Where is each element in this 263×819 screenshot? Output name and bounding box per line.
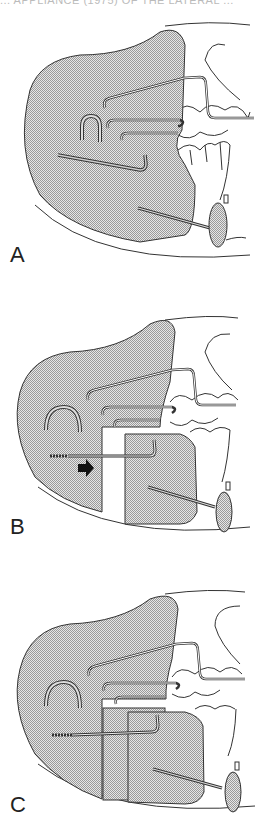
lip-pad	[216, 492, 232, 532]
acrylic-shield-lower-segment	[125, 434, 197, 524]
panel-label-a: A	[10, 242, 25, 268]
appliance-diagram-c	[0, 544, 263, 819]
acrylic-shield-lower-segment	[128, 712, 204, 804]
panel-label-c: C	[10, 792, 26, 818]
lip-pad	[225, 772, 241, 812]
panel-b: B	[0, 272, 263, 544]
lip-pad	[209, 203, 227, 247]
acrylic-shield	[24, 30, 195, 242]
panel-c: C	[0, 544, 263, 819]
appliance-diagram-a	[0, 0, 263, 272]
appliance-diagram-b	[0, 272, 263, 544]
panel-a: A	[0, 0, 263, 272]
panel-label-b: B	[10, 514, 25, 540]
